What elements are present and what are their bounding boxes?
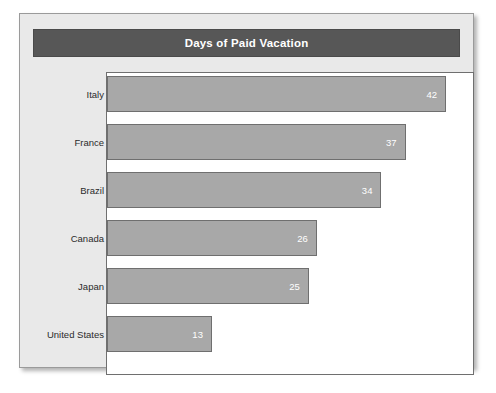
bar-japan: 25 bbox=[107, 268, 309, 304]
bar-italy: 42 bbox=[107, 76, 446, 112]
bar-value-canada: 26 bbox=[297, 233, 316, 244]
category-label-france: France bbox=[0, 137, 104, 148]
category-label-italy: Italy bbox=[0, 89, 104, 100]
bar-canada: 26 bbox=[107, 220, 317, 256]
bar-brazil: 34 bbox=[107, 172, 381, 208]
bar-row: France 37 bbox=[20, 124, 475, 160]
category-label-japan: Japan bbox=[0, 281, 104, 292]
bar-row: Japan 25 bbox=[20, 268, 475, 304]
bar-value-brazil: 34 bbox=[362, 185, 381, 196]
bar-value-united-states: 13 bbox=[192, 329, 211, 340]
bar-row: United States 13 bbox=[20, 316, 475, 352]
bar-row: Brazil 34 bbox=[20, 172, 475, 208]
category-label-canada: Canada bbox=[0, 233, 104, 244]
bar-row: Canada 26 bbox=[20, 220, 475, 256]
bar-value-italy: 42 bbox=[426, 89, 445, 100]
bar-value-france: 37 bbox=[386, 137, 405, 148]
bar-france: 37 bbox=[107, 124, 406, 160]
category-label-united-states: United States bbox=[0, 329, 104, 340]
bar-row: Italy 42 bbox=[20, 76, 475, 112]
bar-united-states: 13 bbox=[107, 316, 212, 352]
bar-value-japan: 25 bbox=[289, 281, 308, 292]
chart-card: Days of Paid Vacation Italy 42 France 37… bbox=[19, 13, 474, 368]
bar-rows: Italy 42 France 37 Brazil 34 Canada 26 J… bbox=[20, 14, 475, 369]
category-label-brazil: Brazil bbox=[0, 185, 104, 196]
